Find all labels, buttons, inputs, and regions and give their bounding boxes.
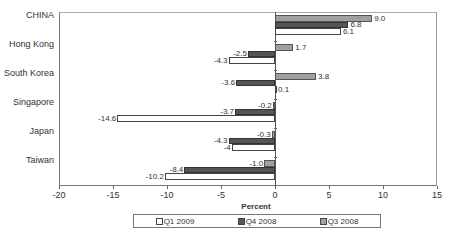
bar-q1-2009 xyxy=(165,173,275,180)
x-tick-mark xyxy=(275,186,276,189)
legend-item-q1-2009: Q1 2009 xyxy=(156,217,195,226)
legend-swatch-q3-2008 xyxy=(320,218,327,225)
x-tick-mark xyxy=(113,186,114,189)
y-tick-mark xyxy=(274,70,277,71)
x-tick-mark xyxy=(437,186,438,189)
data-label: 0.1 xyxy=(278,86,289,94)
x-tick-label: 15 xyxy=(432,190,442,200)
x-tick-label: 5 xyxy=(326,190,331,200)
bar-q1-2009 xyxy=(232,144,275,151)
bar-q1-2009 xyxy=(229,57,275,64)
x-tick-label: -5 xyxy=(217,190,225,200)
x-tick-mark xyxy=(383,186,384,189)
legend-item-q3-2008: Q3 2008 xyxy=(320,217,359,226)
y-tick-mark xyxy=(274,157,277,158)
x-tick-mark xyxy=(221,186,222,189)
x-tick-mark xyxy=(167,186,168,189)
legend-item-q4-2008: Q4 2008 xyxy=(238,217,277,226)
x-axis-label: Percent xyxy=(0,202,450,211)
data-label: -10.2 xyxy=(134,173,164,181)
legend-swatch-q1-2009 xyxy=(156,218,163,225)
bar-q3-2008 xyxy=(275,73,316,80)
category-label: Singapore xyxy=(0,97,54,107)
bar-q3-2008 xyxy=(275,44,293,51)
data-label: -4.3 xyxy=(198,57,228,65)
x-tick-label: 10 xyxy=(378,190,388,200)
legend-label: Q1 2009 xyxy=(164,217,195,226)
bar-q1-2009 xyxy=(275,86,277,93)
category-label: CHINA xyxy=(0,10,54,20)
bar-q4-2008 xyxy=(236,80,275,87)
data-label: 9.0 xyxy=(374,15,385,23)
legend-swatch-q4-2008 xyxy=(238,218,245,225)
category-label: Hong Kong xyxy=(0,39,54,49)
data-label: 6.1 xyxy=(343,28,354,36)
y-tick-mark xyxy=(274,41,277,42)
legend: Q1 2009 Q4 2008 Q3 2008 xyxy=(133,214,381,228)
x-tick-label: -15 xyxy=(106,190,119,200)
x-tick-mark xyxy=(59,186,60,189)
bar-q1-2009 xyxy=(275,28,341,35)
category-label: South Korea xyxy=(0,68,54,78)
data-label: -3.6 xyxy=(205,79,235,87)
category-label: Taiwan xyxy=(0,155,54,165)
bar-chart: -20-15-10-5051015CHINA9.06.86.1Hong Kong… xyxy=(0,0,450,241)
data-label: 1.7 xyxy=(295,44,306,52)
legend-label: Q3 2008 xyxy=(328,217,359,226)
data-label: 3.8 xyxy=(318,73,329,81)
bar-q1-2009 xyxy=(117,115,275,122)
x-tick-label: 0 xyxy=(272,190,277,200)
y-tick-mark xyxy=(274,128,277,129)
y-tick-mark xyxy=(274,99,277,100)
data-label: -14.6 xyxy=(86,115,116,123)
x-tick-label: -10 xyxy=(160,190,173,200)
x-tick-label: -20 xyxy=(52,190,65,200)
x-tick-mark xyxy=(329,186,330,189)
category-label: Japan xyxy=(0,126,54,136)
legend-label: Q4 2008 xyxy=(246,217,277,226)
data-label: -4 xyxy=(201,144,231,152)
